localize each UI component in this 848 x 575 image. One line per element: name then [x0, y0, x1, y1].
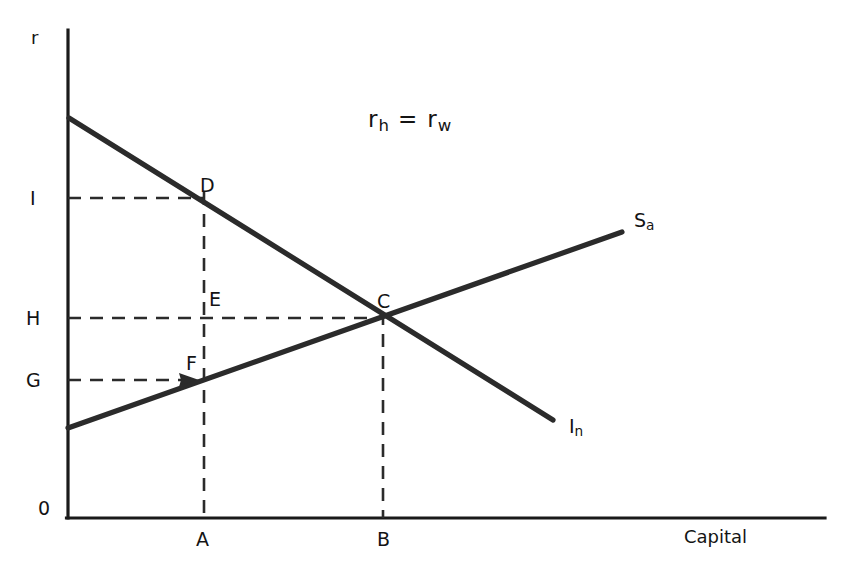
title-rhs-base: r	[427, 106, 437, 132]
curve-label-saving-base: S	[634, 209, 646, 231]
point-label-f: F	[186, 354, 197, 373]
origin-label: 0	[38, 499, 51, 518]
chart-title-equation: rh=rw	[368, 108, 451, 134]
title-operator: =	[389, 106, 427, 132]
curve-label-saving: Sa	[634, 211, 654, 233]
chart-canvas	[0, 0, 848, 575]
point-label-e: E	[209, 290, 221, 309]
economics-chart-figure: r Capital 0 I H G A B D E C F Sa In rh=r…	[0, 0, 848, 575]
x-tick-label-b: B	[377, 530, 391, 549]
y-tick-label-i: I	[30, 189, 36, 208]
point-label-c: C	[377, 292, 390, 311]
y-tick-label-g: G	[26, 371, 41, 390]
y-tick-label-h: H	[26, 309, 41, 328]
curve-label-investment-subscript: n	[575, 423, 584, 439]
x-tick-label-a: A	[196, 530, 210, 549]
title-rhs-subscript: w	[438, 116, 452, 135]
title-lhs-subscript: h	[378, 116, 389, 135]
curve-label-investment: In	[569, 417, 583, 439]
title-lhs-base: r	[368, 106, 378, 132]
y-axis-title: r	[31, 29, 38, 47]
point-label-d: D	[200, 176, 215, 195]
curve-label-saving-subscript: a	[646, 217, 654, 233]
x-axis-title: Capital	[684, 528, 747, 546]
investment-demand-curve	[69, 118, 553, 420]
saving-supply-curve	[68, 232, 622, 428]
